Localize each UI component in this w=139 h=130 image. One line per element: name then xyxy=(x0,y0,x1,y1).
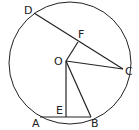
label-e: E xyxy=(56,104,63,117)
label-o: O xyxy=(54,55,63,68)
segment-of xyxy=(66,42,78,61)
geometry-diagram: D F O C E A B xyxy=(0,0,139,130)
label-b: B xyxy=(91,117,99,130)
label-c: C xyxy=(125,65,133,78)
label-f: F xyxy=(78,28,84,41)
segment-oc xyxy=(66,61,123,69)
label-d: D xyxy=(24,4,32,17)
label-a: A xyxy=(32,117,40,130)
chord-dc xyxy=(34,13,123,69)
segment-ob xyxy=(66,61,91,117)
